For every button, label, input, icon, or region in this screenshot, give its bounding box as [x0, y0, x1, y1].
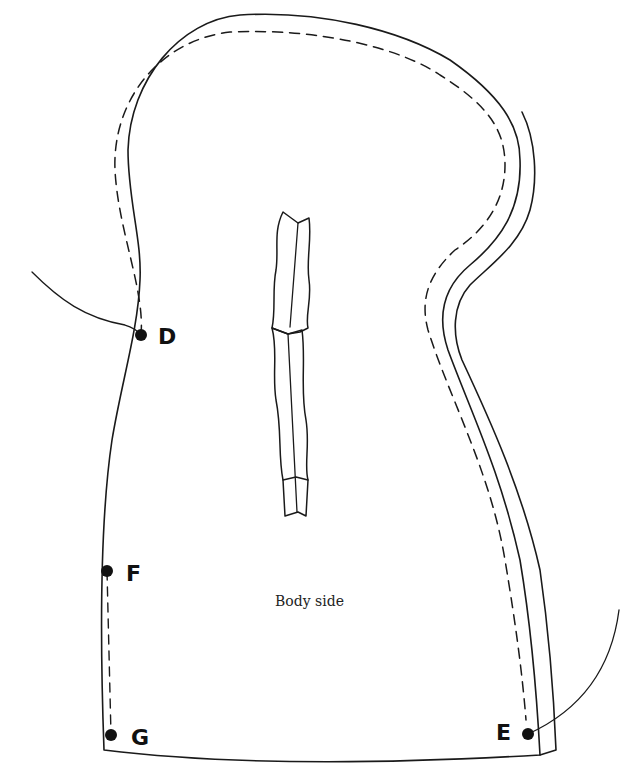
leader-line-d [32, 272, 141, 335]
point-label-f: F [126, 563, 141, 585]
point-d-marker [135, 329, 147, 341]
piece-caption: Body side [275, 594, 344, 608]
side-layer-line [455, 112, 556, 755]
fg-dashed-connector [107, 571, 111, 735]
pleat-lower-fold [288, 334, 297, 512]
pleat-upper-fold [290, 223, 298, 327]
point-label-e: E [496, 722, 511, 744]
point-label-g: G [131, 727, 149, 749]
leader-line-e [528, 610, 619, 734]
seam-allowance-line [115, 31, 526, 720]
point-f-marker [101, 565, 113, 577]
point-g-marker [105, 729, 117, 741]
point-e-marker [522, 728, 534, 740]
point-label-d: D [158, 326, 176, 348]
pleat-lower [272, 328, 308, 516]
pattern-diagram [0, 0, 629, 778]
